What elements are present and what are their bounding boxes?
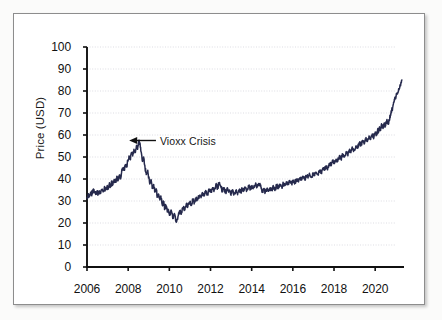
figure-frame: Price (USD) 1009080706050403020100 20062… [13,13,425,305]
y-tick-label: 60 [24,129,71,141]
annotation-arrow [129,137,156,144]
annotation-label-vioxx-crisis: Vioxx Crisis [160,135,216,147]
x-tick-label: 2020 [362,282,388,296]
gridlines [87,47,396,245]
x-tick-label: 2006 [74,282,100,296]
plot-area [74,34,412,279]
x-tick-label: 2010 [156,282,182,296]
y-tick-label: 70 [24,107,71,119]
y-tick-label: 100 [24,41,71,53]
y-tick-label: 10 [24,239,71,251]
x-tick-label: 2016 [280,282,306,296]
x-tick-label: 2008 [115,282,141,296]
price-line-chart [74,34,412,279]
y-tick-label: 50 [24,151,71,163]
x-axis-tick-labels: 20062008201020122014201620182020 [74,282,426,304]
y-tick-label: 20 [24,217,71,229]
y-axis-tick-labels: 1009080706050403020100 [24,14,71,306]
y-tick-label: 90 [24,63,71,75]
y-tick-label: 30 [24,195,71,207]
x-tick-label: 2014 [239,282,265,296]
y-tick-label: 80 [24,85,71,97]
x-tick-label: 2018 [321,282,347,296]
y-tick-label: 40 [24,173,71,185]
y-tick-label: 0 [24,261,71,273]
x-tick-label: 2012 [197,282,223,296]
axis-tick-marks [83,47,375,271]
